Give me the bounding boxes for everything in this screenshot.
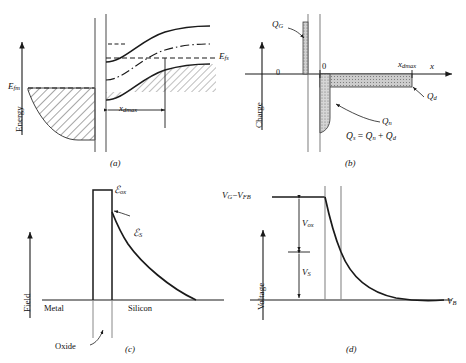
label-oxide-voltage: Vox xyxy=(302,219,314,229)
label-bulk-voltage: VB xyxy=(447,297,456,307)
label-metal-fermi-level: Efm xyxy=(8,82,20,92)
panel-d-caption: (d) xyxy=(346,344,357,354)
panel-c-graphics xyxy=(30,190,224,345)
panel-c-caption: (c) xyxy=(125,344,135,354)
region-label-metal: Metal xyxy=(44,303,64,313)
label-origin-right: 0 xyxy=(322,62,326,71)
region-label-silicon: Silicon xyxy=(128,303,152,313)
label-depletion-width-b: xdmax xyxy=(398,60,416,70)
panel-b-yaxis-label: Charge xyxy=(254,102,264,128)
label-gate-minus-flatband-voltage: VG−VFB xyxy=(222,191,251,201)
panel-a-yaxis-label: Energy xyxy=(14,106,24,132)
panel-b-xaxis-label: x xyxy=(430,62,434,71)
panel-c-yaxis-label: Field xyxy=(22,293,32,312)
figure-mos-capacitor: Energy Efm Efs xdmax (a) Charge QG 0 0 x… xyxy=(0,0,466,363)
panel-d-graphics xyxy=(250,186,452,320)
label-semiconductor-fermi-level: Efs xyxy=(219,52,229,62)
label-inversion-charge: Qn xyxy=(382,117,392,127)
panel-a-caption: (a) xyxy=(110,158,121,168)
label-gate-charge: QG xyxy=(272,20,283,30)
label-surface-field: ℰS xyxy=(133,228,142,239)
label-depletion-width-a: xdmax xyxy=(119,104,137,114)
label-oxide-field: ℰox xyxy=(114,185,126,196)
panel-a-graphics xyxy=(22,14,218,152)
panel-d-yaxis-label: Voltage xyxy=(256,283,266,310)
figure-vector-layer xyxy=(0,0,466,363)
charge-balance-equation: Qs = Qn + Qd xyxy=(346,131,396,141)
label-depletion-charge: Qd xyxy=(427,92,437,102)
region-label-oxide: Oxide xyxy=(55,341,76,351)
label-surface-voltage: VS xyxy=(302,268,311,278)
panel-b-caption: (b) xyxy=(345,158,356,168)
label-origin-left: 0 xyxy=(276,69,280,77)
